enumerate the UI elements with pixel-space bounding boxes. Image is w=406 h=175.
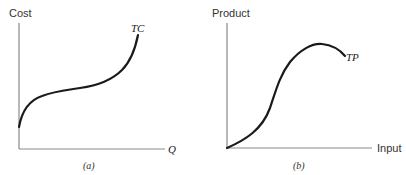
curve-label-tc: TC — [131, 22, 145, 34]
caption-a: (a) — [83, 160, 95, 172]
panel-b: Product Input TP (b) — [212, 7, 401, 172]
y-axis-label-b: Product — [212, 7, 250, 19]
tp-curve — [227, 44, 345, 148]
tc-curve — [19, 35, 138, 127]
x-axis-label-a: Q — [168, 143, 176, 155]
y-axis-label-a: Cost — [9, 7, 32, 19]
curve-label-tp: TP — [346, 51, 359, 63]
x-axis-label-b: Input — [377, 142, 401, 154]
panel-a: Cost Q TC (a) — [9, 7, 176, 172]
caption-b: (b) — [293, 160, 305, 172]
diagram-canvas: Cost Q TC (a) Product Input TP (b) — [0, 0, 406, 175]
